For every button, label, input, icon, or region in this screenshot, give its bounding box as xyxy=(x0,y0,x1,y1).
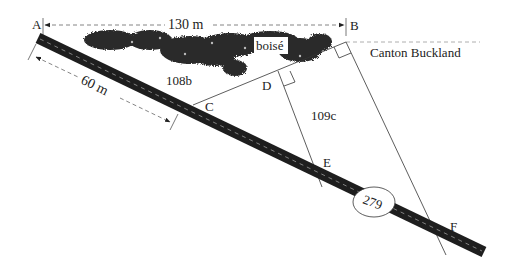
point-a-label: A xyxy=(32,17,42,32)
dimension-130m-label: 130 m xyxy=(168,17,204,32)
point-b-label: B xyxy=(350,18,359,33)
point-c-label: C xyxy=(205,99,214,114)
road-279 xyxy=(38,38,484,252)
forest-label: boisé xyxy=(256,38,284,53)
canton-buckland-label: Canton Buckland xyxy=(370,45,461,60)
point-f-label: F xyxy=(450,219,457,234)
lot-108b-label: 108b xyxy=(166,73,192,88)
lot-109c-label: 109c xyxy=(311,108,337,123)
forest-area xyxy=(84,30,332,76)
point-e-label: E xyxy=(323,155,331,170)
point-d-label: D xyxy=(262,78,271,93)
survey-diagram: A B C D E F 130 m 60 m boisé 108b 109c C… xyxy=(0,0,508,276)
